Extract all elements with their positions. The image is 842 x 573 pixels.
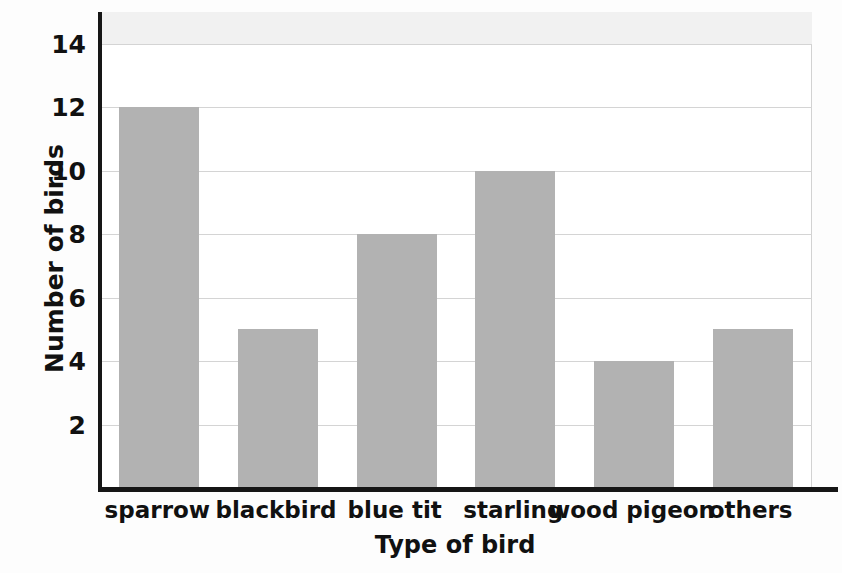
gridline: [100, 107, 812, 108]
x-axis-tick-labels: sparrowblackbirdblue titstarlingwood pig…: [98, 497, 812, 531]
y-tick-label: 4: [69, 347, 86, 376]
gridline: [100, 298, 812, 299]
y-axis-line: [98, 12, 102, 490]
bar: [357, 234, 437, 488]
x-tick-label: blackbird: [216, 497, 337, 523]
bar: [238, 329, 318, 488]
bar: [713, 329, 793, 488]
x-axis-title: Type of bird: [98, 531, 812, 559]
x-tick-label: others: [709, 497, 793, 523]
bar: [594, 361, 674, 488]
gridline: [100, 171, 812, 172]
bar: [119, 107, 199, 488]
y-tick-label: 6: [69, 283, 86, 312]
x-tick-label: blue tit: [348, 497, 442, 523]
y-tick-label: 10: [51, 156, 86, 185]
y-tick-label: 14: [51, 30, 86, 59]
y-axis-tick-labels: 2468101214: [0, 0, 96, 573]
x-axis-line: [98, 487, 838, 492]
bar: [475, 171, 555, 488]
plot-canvas: [100, 44, 812, 488]
plot-area: [98, 12, 812, 490]
y-tick-label: 2: [69, 410, 86, 439]
gridline: [100, 361, 812, 362]
y-tick-label: 12: [51, 93, 86, 122]
bar-chart-figure: Number of birds 2468101214 sparrowblackb…: [0, 0, 842, 573]
plot-top-band: [100, 12, 812, 44]
y-tick-label: 8: [69, 220, 86, 249]
x-tick-label: sparrow: [105, 497, 210, 523]
gridline: [100, 234, 812, 235]
x-tick-label: wood pigeon: [549, 497, 715, 523]
gridline: [100, 44, 812, 45]
gridline: [100, 425, 812, 426]
